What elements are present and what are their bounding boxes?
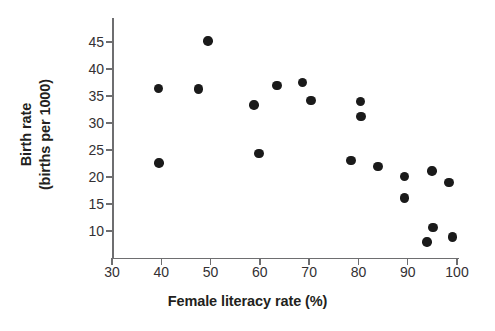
- y-axis-tick-label-wrap: 20: [60, 177, 104, 178]
- x-axis-tick-label: 50: [188, 265, 234, 279]
- y-axis-tick: [106, 68, 113, 70]
- y-axis-tick: [106, 41, 113, 43]
- x-axis-title: Female literacy rate (%): [0, 293, 495, 309]
- y-axis-tick-label-wrap: 35: [60, 96, 104, 97]
- y-axis-tick-label: 10: [64, 224, 104, 238]
- data-point: [298, 78, 307, 87]
- data-point: [346, 156, 355, 165]
- data-point: [154, 158, 163, 167]
- x-axis-tick-label: 40: [138, 265, 184, 279]
- data-point: [400, 193, 409, 202]
- x-axis-tick-label: 80: [335, 265, 381, 279]
- data-point: [427, 166, 436, 175]
- y-axis-tick-label: 20: [64, 170, 104, 184]
- data-point: [272, 81, 281, 90]
- y-axis-line: [112, 18, 114, 259]
- y-axis-tick-label-wrap: 40: [60, 69, 104, 70]
- y-axis-tick-label-wrap: 45: [60, 42, 104, 43]
- y-axis-tick-label: 45: [64, 35, 104, 49]
- y-axis-title-line2: (births per 1000): [36, 79, 55, 190]
- data-point: [422, 237, 431, 246]
- x-axis-tick-label: 90: [385, 265, 431, 279]
- data-point: [373, 162, 382, 171]
- y-axis-tick-label-wrap: 25: [60, 150, 104, 151]
- y-axis-tick-label: 35: [64, 89, 104, 103]
- x-axis-tick-label: 100: [434, 265, 480, 279]
- y-axis-tick-label: 40: [64, 62, 104, 76]
- data-point: [356, 97, 365, 106]
- y-axis-tick: [106, 122, 113, 124]
- y-axis-tick-label: 30: [64, 116, 104, 130]
- data-point: [194, 84, 203, 93]
- data-point: [400, 172, 409, 181]
- x-axis-tick-label: 70: [286, 265, 332, 279]
- y-axis-tick: [106, 149, 113, 151]
- data-point: [356, 112, 365, 121]
- y-axis-tick-label-wrap: 10: [60, 231, 104, 232]
- y-axis-tick: [106, 203, 113, 205]
- data-point: [428, 223, 437, 232]
- data-point: [154, 84, 163, 93]
- data-point: [444, 178, 453, 187]
- y-axis-tick-label: 15: [64, 197, 104, 211]
- data-point: [254, 149, 263, 158]
- y-axis-tick: [106, 176, 113, 178]
- y-axis-tick: [106, 95, 113, 97]
- y-axis-title: Birth rate (births per 1000): [0, 0, 72, 270]
- x-axis-tick-label: 60: [237, 265, 283, 279]
- scatter-plot-figure: Birth rate (births per 1000) 10152025303…: [0, 0, 495, 331]
- y-axis-tick-label-wrap: 30: [60, 123, 104, 124]
- y-axis-tick-label-wrap: 15: [60, 204, 104, 205]
- y-axis-tick: [106, 230, 113, 232]
- y-axis-title-line1: Birth rate: [17, 79, 36, 190]
- data-point: [448, 232, 457, 241]
- x-axis-tick-label: 30: [89, 265, 135, 279]
- data-point: [249, 100, 258, 109]
- y-axis-tick-label: 25: [64, 143, 104, 157]
- data-point: [306, 96, 315, 105]
- data-point: [203, 36, 212, 45]
